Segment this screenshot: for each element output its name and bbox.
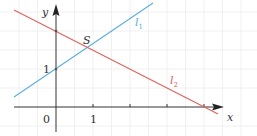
- intersection-label: S: [83, 34, 91, 47]
- y-axis-label: y: [41, 6, 49, 19]
- point-y-intercept-l2: [55, 30, 58, 33]
- point-y-intercept-l1: [55, 68, 58, 71]
- origin-label: 0: [43, 113, 50, 126]
- l1-label: l1: [135, 16, 143, 31]
- l2-label: l2: [170, 74, 178, 89]
- x-axis-label: x: [227, 111, 234, 124]
- line-l2: [14, 10, 218, 114]
- y-tick-label: 1: [43, 63, 50, 76]
- x-tick-label: 1: [90, 113, 97, 126]
- coordinate-diagram: y x 1 0 1 S l1 l2: [0, 0, 257, 136]
- x-axis: [14, 104, 224, 111]
